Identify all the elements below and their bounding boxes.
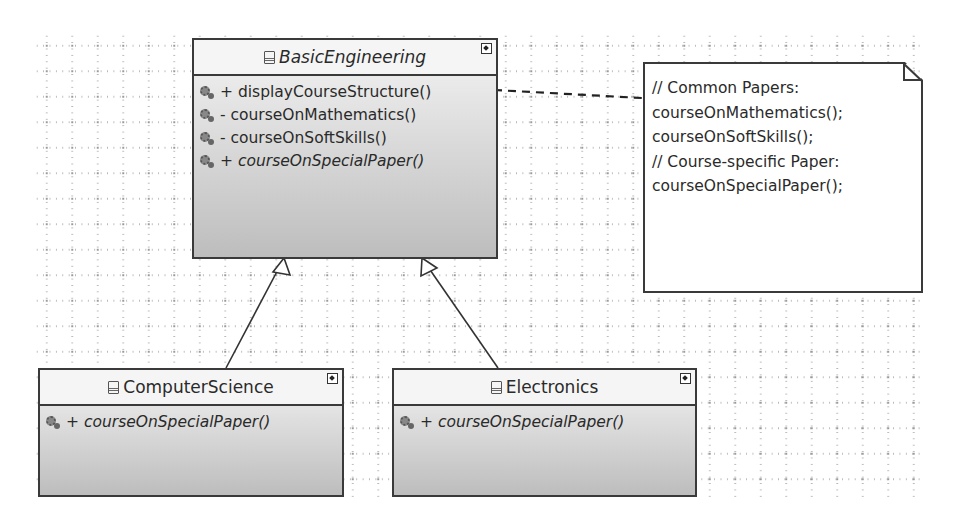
public-method-gear-icon: [400, 415, 414, 429]
generalization-arrowhead-icon: [273, 258, 290, 275]
class-icon: [491, 381, 502, 394]
operation-item[interactable]: + courseOnSpecialPaper(): [200, 149, 496, 172]
operation-item[interactable]: - courseOnMathematics(): [200, 103, 496, 126]
class-computer-science[interactable]: ComputerScience + courseOnSpecialPaper(): [38, 368, 344, 497]
class-electronics[interactable]: Electronics + courseOnSpecialPaper(): [392, 368, 697, 497]
operation-signature: courseOnSoftSkills(): [231, 129, 387, 147]
note-line: courseOnSoftSkills();: [652, 125, 843, 150]
shortcut-link-icon[interactable]: [680, 373, 691, 384]
class-name: ComputerScience: [123, 377, 273, 397]
note-text: // Common Papers: courseOnMathematics();…: [652, 76, 843, 199]
shortcut-link-icon[interactable]: [481, 43, 492, 54]
class-name: BasicEngineering: [279, 47, 426, 67]
operations-compartment: + courseOnSpecialPaper(): [40, 406, 342, 433]
operation-signature: courseOnMathematics(): [231, 106, 417, 124]
generalization-arrowhead-icon: [421, 258, 437, 276]
note-anchor-line[interactable]: [494, 90, 642, 98]
operation-item[interactable]: + displayCourseStructure(): [200, 80, 496, 103]
class-basic-engineering[interactable]: BasicEngineering + displayCourseStructur…: [192, 38, 498, 259]
operation-item[interactable]: + courseOnSpecialPaper(): [400, 410, 695, 433]
visibility: +: [66, 413, 79, 431]
class-name: Electronics: [506, 377, 599, 397]
note-line: courseOnSpecialPaper();: [652, 174, 843, 199]
public-method-gear-icon: [200, 154, 214, 168]
note-line: courseOnMathematics();: [652, 101, 843, 126]
operation-item[interactable]: - courseOnSoftSkills(): [200, 126, 496, 149]
class-icon: [108, 381, 119, 394]
note-fold-corner-icon: [903, 62, 923, 82]
class-icon: [264, 51, 275, 64]
class-header: BasicEngineering: [194, 40, 496, 76]
shortcut-link-icon[interactable]: [327, 373, 338, 384]
public-method-gear-icon: [46, 415, 60, 429]
generalization-cs[interactable]: [226, 262, 282, 368]
operation-signature: courseOnSpecialPaper(): [438, 413, 624, 431]
note-line: // Common Papers:: [652, 76, 843, 101]
diagram-canvas: BasicEngineering + displayCourseStructur…: [0, 0, 954, 528]
operation-item[interactable]: + courseOnSpecialPaper(): [46, 410, 342, 433]
private-method-gear-icon: [200, 108, 214, 122]
visibility: +: [220, 152, 233, 170]
operations-compartment: + displayCourseStructure() - courseOnMat…: [194, 76, 496, 172]
public-method-gear-icon: [200, 85, 214, 99]
generalization-electronics[interactable]: [426, 264, 498, 368]
visibility: +: [420, 413, 433, 431]
operation-signature: displayCourseStructure(): [238, 83, 431, 101]
note-line: // Course-specific Paper:: [652, 150, 843, 175]
visibility: -: [220, 106, 226, 124]
operation-signature: courseOnSpecialPaper(): [238, 152, 424, 170]
visibility: -: [220, 129, 226, 147]
visibility: +: [220, 83, 233, 101]
operations-compartment: + courseOnSpecialPaper(): [394, 406, 695, 433]
operation-signature: courseOnSpecialPaper(): [84, 413, 270, 431]
class-header: ComputerScience: [40, 370, 342, 406]
class-header: Electronics: [394, 370, 695, 406]
private-method-gear-icon: [200, 131, 214, 145]
